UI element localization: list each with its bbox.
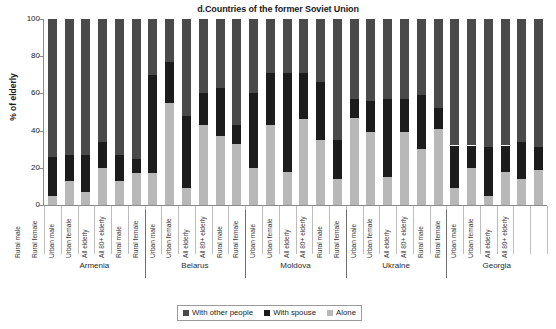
bar-belarus-rural-female[interactable] [165, 19, 174, 205]
bar-segment-with-spouse [517, 142, 526, 179]
group-separator [446, 210, 447, 278]
bar-segment-with-other-people [98, 19, 107, 142]
bar-moldova-urban-female[interactable] [299, 19, 308, 205]
bar-moldova-rural-female[interactable] [266, 19, 275, 205]
bar-segment-alone [484, 196, 493, 205]
legend-item[interactable]: With spouse [264, 308, 316, 317]
bar-georgia-all-elderly[interactable] [517, 19, 526, 205]
bar-segment-with-spouse [383, 99, 392, 177]
bar-armenia-rural-male[interactable] [48, 19, 57, 205]
bar-segment-alone [299, 119, 308, 205]
bar-belarus-all-80-elderly[interactable] [232, 19, 241, 205]
bar-segment-alone [517, 179, 526, 205]
bar-segment-alone [316, 140, 325, 205]
bar-segment-with-spouse [182, 116, 191, 189]
bar-ukraine-rural-male[interactable] [350, 19, 359, 205]
bar-moldova-rural-male[interactable] [249, 19, 258, 205]
bar-segment-with-other-people [501, 19, 510, 145]
bar-segment-with-spouse [534, 147, 543, 169]
bar-segment-with-other-people [283, 19, 292, 73]
bar-segment-with-other-people [400, 19, 409, 99]
bar-segment-alone [333, 179, 342, 205]
bar-segment-with-other-people [333, 19, 342, 140]
bar-segment-with-other-people [148, 19, 157, 75]
group-separator [145, 210, 146, 278]
legend-label: Alone [336, 308, 356, 317]
group-separator [245, 210, 246, 278]
bar-belarus-urban-female[interactable] [199, 19, 208, 205]
legend-item[interactable]: With other people [183, 308, 253, 317]
bar-segment-with-spouse [249, 93, 258, 167]
bar-armenia-all-80-elderly[interactable] [132, 19, 141, 205]
bar-segment-with-other-people [316, 19, 325, 82]
bar-georgia-all-80-elderly[interactable] [534, 19, 543, 205]
bar-georgia-rural-male[interactable] [450, 19, 459, 205]
legend-item[interactable]: Alone [327, 308, 356, 317]
bar-segment-with-spouse [65, 155, 74, 181]
legend-swatch-icon [183, 310, 189, 316]
bar-segment-with-spouse [132, 159, 141, 174]
bar-segment-alone [417, 149, 426, 205]
bar-belarus-urban-male[interactable] [182, 19, 191, 205]
bar-segment-with-other-people [249, 19, 258, 93]
chart-legend: With other peopleWith spouseAlone [177, 305, 362, 321]
bar-segment-with-other-people [65, 19, 74, 155]
bar-segment-alone [216, 136, 225, 205]
chart-container: d.Countries of the former Soviet Union %… [0, 0, 556, 329]
bar-segment-with-other-people [383, 19, 392, 99]
bar-segment-with-other-people [232, 19, 241, 125]
bar-segment-alone [249, 168, 258, 205]
bar-georgia-rural-female[interactable] [467, 19, 476, 205]
bar-segment-alone [501, 172, 510, 205]
bar-segment-with-other-people [199, 19, 208, 93]
bar-segment-alone [132, 173, 141, 205]
bar-ukraine-urban-female[interactable] [400, 19, 409, 205]
bar-segment-with-other-people [366, 19, 375, 101]
bar-armenia-rural-female[interactable] [65, 19, 74, 205]
bar-segment-alone [350, 118, 359, 205]
bar-segment-with-spouse [199, 93, 208, 125]
bar-segment-alone [383, 177, 392, 205]
group-label-ukraine: Ukraine [346, 261, 447, 270]
bar-ukraine-all-80-elderly[interactable] [434, 19, 443, 205]
bar-armenia-urban-female[interactable] [98, 19, 107, 205]
bar-segment-with-other-people [467, 19, 476, 145]
bar-segment-with-other-people [182, 19, 191, 116]
bar-segment-alone [98, 168, 107, 205]
bar-segment-with-spouse [148, 75, 157, 174]
y-tick-label: 20 [0, 163, 40, 172]
bar-moldova-all-elderly[interactable] [316, 19, 325, 205]
bar-georgia-urban-male[interactable] [484, 19, 493, 205]
bar-segment-alone [199, 125, 208, 205]
bar-segment-with-other-people [350, 19, 359, 99]
bar-segment-alone [266, 125, 275, 205]
group-labels-band: ArmeniaBelarusMoldovaUkraineGeorgia [44, 256, 547, 278]
bar-segment-with-other-people [81, 19, 90, 155]
bar-segment-with-spouse [115, 155, 124, 181]
bar-segment-with-other-people [417, 19, 426, 95]
bar-segment-with-other-people [450, 19, 459, 145]
bar-segment-alone [65, 181, 74, 205]
bar-armenia-urban-male[interactable] [81, 19, 90, 205]
bar-moldova-all-80-elderly[interactable] [333, 19, 342, 205]
y-tick-label: 80 [0, 51, 40, 60]
bar-segment-alone [400, 132, 409, 205]
bar-belarus-rural-male[interactable] [148, 19, 157, 205]
bar-segment-with-spouse [467, 146, 476, 168]
bar-moldova-urban-male[interactable] [283, 19, 292, 205]
bar-segment-with-other-people [115, 19, 124, 155]
bar-ukraine-urban-male[interactable] [383, 19, 392, 205]
bar-ukraine-rural-female[interactable] [366, 19, 375, 205]
bar-segment-with-other-people [165, 19, 174, 62]
bar-segment-with-other-people [216, 19, 225, 88]
bar-segment-alone [232, 144, 241, 205]
bar-ukraine-all-elderly[interactable] [417, 19, 426, 205]
y-tick-label: 40 [0, 126, 40, 135]
bar-segment-alone [148, 173, 157, 205]
bar-georgia-urban-female[interactable] [501, 19, 510, 205]
group-label-georgia: Georgia [446, 261, 547, 270]
bar-segment-with-other-people [434, 19, 443, 108]
bar-belarus-all-elderly[interactable] [216, 19, 225, 205]
bar-armenia-all-elderly[interactable] [115, 19, 124, 205]
bar-segment-alone [434, 129, 443, 205]
